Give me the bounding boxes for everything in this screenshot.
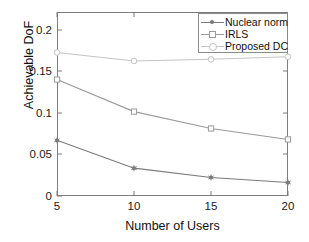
series-line xyxy=(57,80,288,140)
square-icon xyxy=(209,31,216,38)
x-tick-label: 10 xyxy=(128,201,141,213)
square-marker xyxy=(54,77,59,82)
x-tick-label: 15 xyxy=(205,201,218,213)
legend-sample-irls xyxy=(199,28,225,40)
legend-entry-proposed-dc: Proposed DC xyxy=(199,40,287,52)
circle-marker xyxy=(54,50,60,56)
legend-entry-irls: IRLS xyxy=(199,28,287,40)
data-series-layer xyxy=(54,50,291,186)
circle-marker xyxy=(285,54,291,60)
series-line xyxy=(57,53,288,61)
filled-star-marker xyxy=(54,137,59,143)
filled-star-icon xyxy=(210,20,214,24)
legend-sample-proposed-dc xyxy=(199,40,225,52)
legend-label: IRLS xyxy=(225,29,248,40)
square-marker xyxy=(131,109,136,114)
filled-star-marker xyxy=(285,179,290,185)
circle-marker xyxy=(208,56,214,62)
filled-star-marker xyxy=(208,174,213,180)
figure-canvas: 0.2 0.15 0.1 0.05 0 5 10 15 xyxy=(0,0,309,242)
filled-star-marker xyxy=(131,165,136,171)
legend-label: Nuclear norm xyxy=(225,17,288,28)
legend-label: Proposed DC xyxy=(225,41,288,52)
y-axis-label: Achievable DoF xyxy=(22,0,36,140)
square-marker xyxy=(208,126,213,131)
circle-marker xyxy=(131,58,137,64)
x-tick-label: 20 xyxy=(282,201,295,213)
square-marker xyxy=(285,137,290,142)
legend: Nuclear norm IRLS Proposed DC xyxy=(198,13,288,53)
legend-sample-nuclear-norm xyxy=(199,16,225,28)
x-tick-label: 5 xyxy=(54,201,60,213)
series-line xyxy=(57,140,288,182)
circle-icon xyxy=(209,43,217,51)
legend-entry-nuclear-norm: Nuclear norm xyxy=(199,16,287,28)
x-axis-label: Number of Users xyxy=(57,219,288,233)
